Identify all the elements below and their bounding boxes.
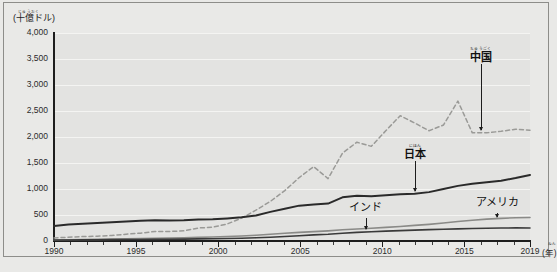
series-label-インド: インド: [326, 201, 406, 213]
series-label-日本: にほん日本: [375, 144, 455, 161]
series-label-text: 日本: [404, 148, 426, 160]
series-label-text: 中国: [470, 51, 492, 63]
series-leader-インド: [366, 218, 367, 229]
series-label-text: アメリカ: [476, 196, 519, 208]
series-label-text: インド: [349, 201, 382, 213]
series-leader-日本: [415, 161, 416, 191]
series-label-アメリカ: アメリカ: [457, 196, 537, 208]
series-line-中国: [54, 101, 530, 238]
x-axis-unit-ruby: ねん: [548, 242, 556, 246]
series-label-中国: ちゅうごく中国: [441, 47, 521, 64]
x-axis-unit-text: (年): [542, 248, 557, 258]
x-axis-unit-label: ねん (年): [542, 246, 557, 258]
series-leader-中国: [481, 64, 482, 130]
series-leader-アメリカ: [497, 213, 498, 217]
